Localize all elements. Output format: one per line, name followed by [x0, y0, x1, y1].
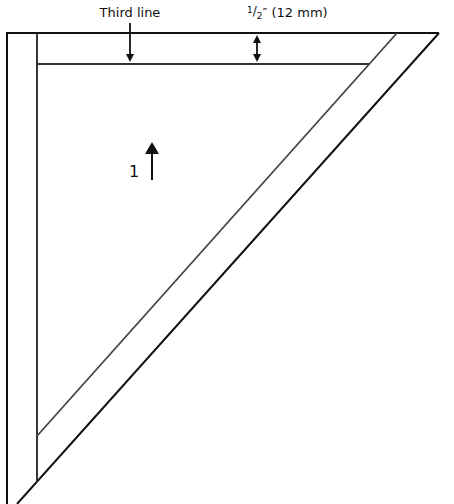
- step-number: 1: [129, 162, 139, 181]
- outer-outline: [6, 33, 439, 504]
- outer-diagonal-edge: [17, 33, 439, 504]
- inner-diagonal-line: [37, 33, 397, 436]
- third-line-label: Third line: [99, 5, 161, 20]
- inner-lines: [37, 33, 397, 482]
- seam-allowance-label: 1/2″ (12 mm): [247, 4, 328, 21]
- seam-allowance-measure: ″ (12 mm): [263, 5, 328, 20]
- triangle-diagram: Third line 1/2″ (12 mm) 1: [0, 0, 454, 504]
